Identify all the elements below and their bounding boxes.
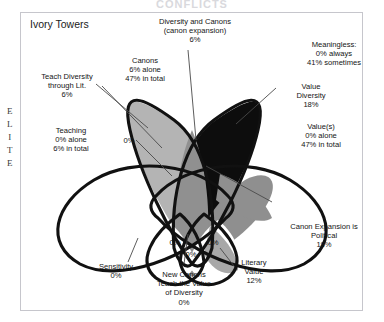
- label-line: 6% in total: [28, 144, 114, 153]
- label-zero-lower-left: 0%: [164, 238, 186, 247]
- label-line: 35% alone: [204, 71, 294, 80]
- label-line: Teaching: [28, 126, 114, 135]
- label-zero-bottom-center: 0%: [180, 250, 202, 259]
- cropped-page-heading: CONFLICTS: [0, 0, 384, 8]
- label-line: 41% sometimes: [286, 58, 382, 67]
- label-line: Canons: [104, 56, 186, 65]
- label-teach-diversity-through-lit: Teach Diversity through Lit. 6%: [18, 72, 116, 100]
- label-line: Literary: [224, 258, 284, 267]
- label-line: 0% always: [286, 49, 382, 58]
- label-literary-value: Literary Value 12%: [224, 258, 284, 286]
- label-zero-lower-right: 0%: [202, 238, 224, 247]
- label-canon-expansion-is-political: Canon Expansion is Political 18%: [272, 222, 376, 250]
- label-zero-upper-left: 0%: [118, 136, 140, 145]
- label-line: through Lit.: [18, 81, 116, 90]
- label-line: Diversity: [204, 62, 294, 71]
- label-line: Diversity: [276, 91, 346, 100]
- label-line: 6% alone: [104, 65, 186, 74]
- leader-diversity-and-canons: [188, 50, 196, 140]
- elite-letter-2: L: [2, 118, 18, 131]
- label-line: 47% in total: [104, 74, 186, 83]
- label-line: 0%: [136, 298, 232, 307]
- label-teaching: Teaching 0% alone 6% in total: [28, 126, 114, 154]
- label-line: Political: [272, 231, 376, 240]
- label-line: Value: [224, 267, 284, 276]
- label-line: 18%: [276, 100, 346, 109]
- label-diversity-and-canons: Diversity and Canons (canon expansion) 6…: [130, 17, 260, 45]
- label-line: 6%: [130, 35, 260, 44]
- label-line: 6%: [18, 90, 116, 99]
- label-new-canons-teach-value-of-diversity: New Canons Teach the Value of Diversity …: [136, 270, 232, 307]
- label-line: 47% in total: [278, 140, 364, 149]
- label-line: 12%: [224, 276, 284, 285]
- label-meaningless: Meaningless: 0% always 41% sometimes: [286, 40, 382, 68]
- figure-canvas: CONFLICTS ELITE Ivory Towers: [0, 0, 384, 322]
- label-line: 18%: [272, 240, 376, 249]
- label-line: 0% alone: [278, 131, 364, 140]
- label-line: 0% alone: [28, 135, 114, 144]
- label-canons: Canons 6% alone 47% in total: [104, 56, 186, 84]
- label-line: of Diversity: [136, 288, 232, 297]
- label-values: Value(s) 0% alone 47% in total: [278, 122, 364, 150]
- elite-letter-3: I: [2, 131, 18, 144]
- label-line: (canon expansion): [130, 26, 260, 35]
- label-line: New Canons: [136, 270, 232, 279]
- label-value-diversity: Value Diversity 18%: [276, 82, 346, 110]
- elite-letter-1: E: [2, 105, 18, 118]
- elite-axis-label: ELITE: [2, 105, 18, 170]
- label-line: Value(s): [278, 122, 364, 131]
- label-line: Teach the Value: [136, 279, 232, 288]
- label-line: Diversity and Canons: [130, 17, 260, 26]
- label-line: Teach Diversity: [18, 72, 116, 81]
- elite-letter-5: E: [2, 157, 18, 170]
- elite-letter-4: T: [2, 144, 18, 157]
- label-line: Value: [276, 82, 346, 91]
- label-line: Canon Expansion is: [272, 222, 376, 231]
- label-line: Meaningless:: [286, 40, 382, 49]
